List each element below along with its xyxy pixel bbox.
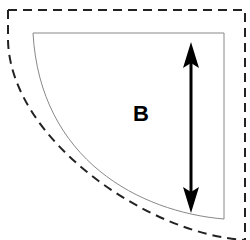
diagram-canvas: B: [0, 0, 250, 240]
region-label: B: [133, 101, 149, 126]
